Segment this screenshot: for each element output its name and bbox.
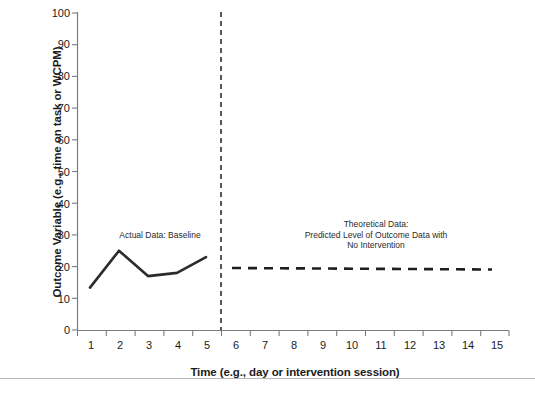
theoretical-data-line bbox=[232, 268, 492, 270]
baseline-data-line bbox=[90, 251, 206, 288]
page-divider-rule bbox=[0, 378, 535, 379]
x-axis-ticks bbox=[78, 331, 510, 337]
single-case-design-chart: Outcome Variable (e.g., time on task or … bbox=[0, 0, 535, 396]
x-axis-title: Time (e.g., day or intervention session) bbox=[80, 366, 510, 378]
plot-area bbox=[0, 0, 535, 396]
baseline-annotation: Actual Data: Baseline bbox=[100, 230, 220, 241]
y-axis-ticks bbox=[72, 13, 78, 330]
theoretical-annotation: Theoretical Data: Predicted Level of Out… bbox=[283, 219, 469, 251]
